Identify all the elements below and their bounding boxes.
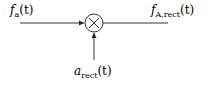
input-signal-label: fa(t)	[10, 3, 33, 22]
modulator-signal-label: arect(t)	[74, 64, 112, 83]
output-signal-label: fA,rect(t)	[151, 3, 194, 22]
